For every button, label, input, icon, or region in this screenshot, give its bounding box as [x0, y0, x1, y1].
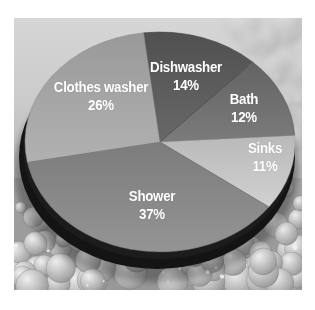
pie-chart [14, 18, 302, 290]
bubble-highlight [293, 245, 298, 250]
pie-slice-clothes-washer [25, 33, 160, 162]
bubble [250, 248, 277, 275]
bubbles-photo-background: Dishwasher14%Bath12%Sinks11%Shower37%Clo… [14, 18, 302, 290]
bubble-highlight [220, 274, 224, 278]
bubble [256, 45, 270, 59]
bubble-highlight [103, 280, 105, 282]
figure: Dishwasher14%Bath12%Sinks11%Shower37%Clo… [0, 0, 315, 310]
bubble-highlight [47, 249, 50, 252]
bubble-highlight [14, 244, 18, 248]
pie-slices [25, 32, 295, 252]
bubble-highlight [86, 285, 88, 287]
bubble [292, 93, 302, 106]
